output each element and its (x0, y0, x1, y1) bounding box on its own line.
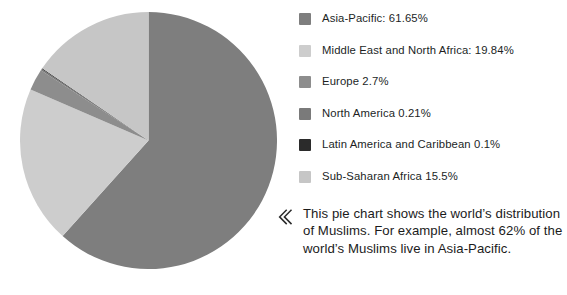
legend-item-latin-america-and-caribbean[interactable]: Latin America and Caribbean 0.1% (299, 137, 561, 169)
legend-swatch-icon (299, 45, 311, 57)
legend-item-label: Asia-Pacific: 61.65% (322, 11, 428, 25)
pie-chart-svg (20, 12, 277, 269)
legend-item-label: Sub-Saharan Africa 15.5% (322, 169, 458, 183)
pie-chart (20, 12, 277, 269)
legend-swatch-icon (299, 76, 311, 88)
legend-item-middle-east-and-north-africa[interactable]: Middle East and North Africa: 19.84% (299, 43, 561, 75)
legend-item-asia-pacific[interactable]: Asia-Pacific: 61.65% (299, 11, 561, 43)
legend-item-label: Latin America and Caribbean 0.1% (322, 137, 500, 151)
chart-legend: Asia-Pacific: 61.65% Middle East and Nor… (299, 11, 561, 200)
double-chevron-left-icon (276, 207, 294, 227)
legend-item-label: Europe 2.7% (322, 74, 389, 88)
legend-item-sub-saharan-africa[interactable]: Sub-Saharan Africa 15.5% (299, 169, 561, 201)
legend-item-label: North America 0.21% (322, 106, 431, 120)
legend-item-north-america[interactable]: North America 0.21% (299, 106, 561, 138)
legend-item-europe[interactable]: Europe 2.7% (299, 74, 561, 106)
legend-swatch-icon (299, 108, 311, 120)
chart-caption: This pie chart shows the world’s distrib… (276, 205, 566, 257)
pie-chart-figure: Asia-Pacific: 61.65% Middle East and Nor… (0, 0, 567, 295)
legend-swatch-icon (299, 139, 311, 151)
legend-item-label: Middle East and North Africa: 19.84% (322, 43, 514, 57)
legend-swatch-icon (299, 13, 311, 25)
caption-text: This pie chart shows the world’s distrib… (303, 205, 566, 257)
pie-slices (20, 12, 277, 269)
legend-swatch-icon (299, 171, 311, 183)
